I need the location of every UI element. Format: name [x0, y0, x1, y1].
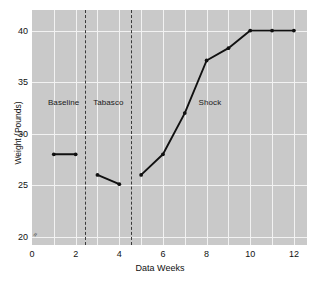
- data-point-shock-week-5: [139, 173, 143, 177]
- x-axis-title: Data Weeks: [0, 263, 320, 273]
- data-point-tabasco-week-4: [117, 182, 121, 186]
- x-tick-12: 12: [289, 249, 299, 259]
- x-tick-0: 0: [29, 249, 34, 259]
- data-point-baseline-week-1: [52, 152, 56, 156]
- data-point-shock-week-12: [292, 29, 296, 33]
- x-tick-2: 2: [73, 249, 78, 259]
- weight-line-chart: BaselineTabascoShock 2025303540 02468101…: [0, 0, 320, 281]
- x-tick-10: 10: [245, 249, 255, 259]
- data-point-shock-week-6: [161, 152, 165, 156]
- x-tick-8: 8: [204, 249, 209, 259]
- data-point-shock-week-10: [248, 29, 252, 33]
- data-point-tabasco-week-3: [96, 173, 100, 177]
- data-series-overlay: [32, 10, 307, 245]
- data-point-shock-week-9: [227, 46, 231, 50]
- y-tick-20: 20: [18, 232, 28, 242]
- plot-area: BaselineTabascoShock: [32, 10, 307, 245]
- data-point-shock-week-7: [183, 111, 187, 115]
- phase-label-tabasco: Tabasco: [93, 98, 124, 107]
- phase-label-shock: Shock: [199, 98, 222, 107]
- series-line-tabasco: [97, 175, 119, 184]
- data-point-baseline-week-2: [74, 152, 78, 156]
- data-point-shock-week-11: [270, 29, 274, 33]
- phase-label-baseline: Baseline: [48, 98, 80, 107]
- y-axis-title: Weight (Pounds): [13, 73, 23, 193]
- x-tick-4: 4: [117, 249, 122, 259]
- y-tick-40: 40: [18, 26, 28, 36]
- x-tick-6: 6: [160, 249, 165, 259]
- data-point-shock-week-8: [205, 59, 209, 63]
